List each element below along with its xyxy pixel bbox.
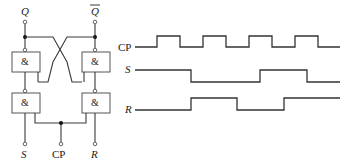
output-label-q: Q <box>21 5 29 17</box>
output-label-q-bar: Q <box>90 5 100 17</box>
cp-junction-dot <box>59 121 63 125</box>
timing-diagram: CP S R <box>118 36 340 115</box>
flip-flop-circuit: Q Q & & & & <box>12 5 110 160</box>
gate-symbol: & <box>21 56 29 67</box>
g3-output-bubble <box>23 89 27 93</box>
cp-pin <box>59 142 63 146</box>
cp-waveform <box>135 36 340 47</box>
g4-output-bubble <box>93 89 97 93</box>
g1-output-bubble <box>23 48 27 52</box>
signal-label-cp: CP <box>118 41 131 53</box>
g2-output-bubble <box>93 48 97 52</box>
q-bar-pin <box>93 20 97 24</box>
input-label-s: S <box>21 148 27 160</box>
svg-text:Q: Q <box>91 5 99 17</box>
q-pin <box>23 20 27 24</box>
gate-symbol: & <box>91 97 99 108</box>
r-waveform <box>135 98 340 110</box>
s-pin <box>23 142 27 146</box>
signal-label-s: S <box>125 63 131 75</box>
gate-symbol: & <box>21 97 29 108</box>
input-label-cp: CP <box>52 148 65 160</box>
gate-symbol: & <box>91 56 99 67</box>
input-label-r: R <box>90 148 98 160</box>
diagram-canvas: Q Q & & & & <box>0 0 349 165</box>
r-pin <box>93 142 97 146</box>
signal-label-r: R <box>124 103 132 115</box>
s-waveform <box>135 70 340 82</box>
